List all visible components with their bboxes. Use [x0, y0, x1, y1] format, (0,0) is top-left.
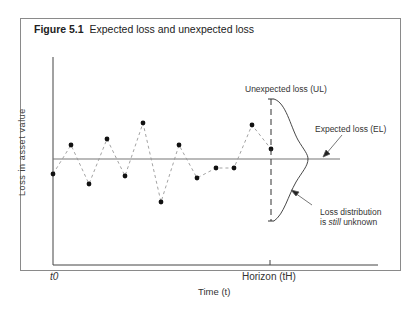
loss-distribution-curve: [274, 99, 308, 221]
x-axis-label: Time (t): [198, 286, 230, 297]
dist-pre: is: [320, 217, 329, 227]
t0-label: t0: [50, 271, 58, 282]
horizon-label: Horizon (tH): [242, 271, 296, 282]
annotation-arrows: [291, 135, 342, 205]
el-arrow-line: [326, 135, 342, 154]
dist-arrow-line: [295, 193, 312, 205]
dist-post: unknown: [341, 217, 377, 227]
loss-points: [51, 121, 274, 205]
unexpected-loss-label: Unexpected loss (UL): [245, 84, 327, 94]
dist-em: still: [329, 217, 341, 227]
chart-canvas: [0, 0, 420, 326]
distribution-label: Loss distribution is still unknown: [320, 207, 381, 227]
el-text: Expected loss (EL): [315, 124, 386, 134]
expected-loss-label: Expected loss (EL): [315, 124, 386, 134]
y-axis-label: Loss in asset value: [17, 108, 27, 196]
dist-line1: Loss distribution: [320, 207, 381, 217]
dist-line2: is still unknown: [320, 217, 381, 227]
ul-text: Unexpected loss (UL): [245, 84, 327, 94]
loss-path: [53, 123, 271, 202]
